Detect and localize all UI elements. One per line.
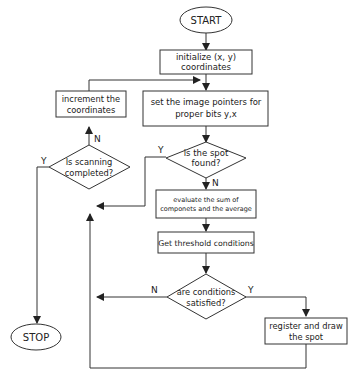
threshold-label: Get threshold conditions <box>158 239 254 248</box>
spot-found-yes-label: Y <box>157 145 164 155</box>
conditions-decision: are conditions satisfied? <box>167 274 246 319</box>
spot-found-line2: found? <box>192 158 221 168</box>
set-pointers-line2: proper bits y,x <box>175 109 237 119</box>
spot-found-decision: is the spot found? <box>166 142 246 178</box>
evaluate-line1: evaluate the sum of <box>173 196 239 204</box>
conditions-line1: are conditions <box>177 287 236 297</box>
threshold-box: Get threshold conditions <box>158 232 254 253</box>
increment-box: increment the coordinates <box>56 91 126 117</box>
stop-label: STOP <box>23 332 49 343</box>
set-pointers-line1: set the image pointers for <box>151 97 262 107</box>
increment-line2: coordinates <box>67 105 116 115</box>
scanning-decision: Is scanning completed? <box>49 145 130 189</box>
spot-found-line1: is the spot <box>184 148 229 158</box>
register-line2: the spot <box>289 332 324 342</box>
start-label: START <box>191 15 223 26</box>
set-pointers-box: set the image pointers for proper bits y… <box>143 91 268 126</box>
conditions-line2: satisfied? <box>186 298 225 308</box>
scanning-line2: completed? <box>65 168 113 178</box>
conditions-no-label: N <box>151 285 158 295</box>
scanning-line1: Is scanning <box>66 157 113 167</box>
register-box: register and draw the spot <box>265 318 347 344</box>
conditions-yes-label: Y <box>247 285 254 295</box>
scanning-no-label: N <box>94 134 101 144</box>
register-line1: register and draw <box>269 321 343 331</box>
increment-line1: increment the <box>62 94 120 104</box>
evaluate-line2: componets and the average <box>160 205 252 213</box>
flowchart: START initialize (x, y) coordinates set … <box>0 0 360 381</box>
scanning-yes-label: Y <box>40 156 47 166</box>
spot-found-no-label: N <box>212 178 219 188</box>
initialize-line2: coordinates <box>181 62 231 72</box>
initialize-box: initialize (x, y) coordinates <box>160 50 252 74</box>
evaluate-box: evaluate the sum of componets and the av… <box>156 190 256 218</box>
start-terminal: START <box>180 7 232 33</box>
initialize-line1: initialize (x, y) <box>176 52 236 62</box>
stop-terminal: STOP <box>11 324 61 350</box>
